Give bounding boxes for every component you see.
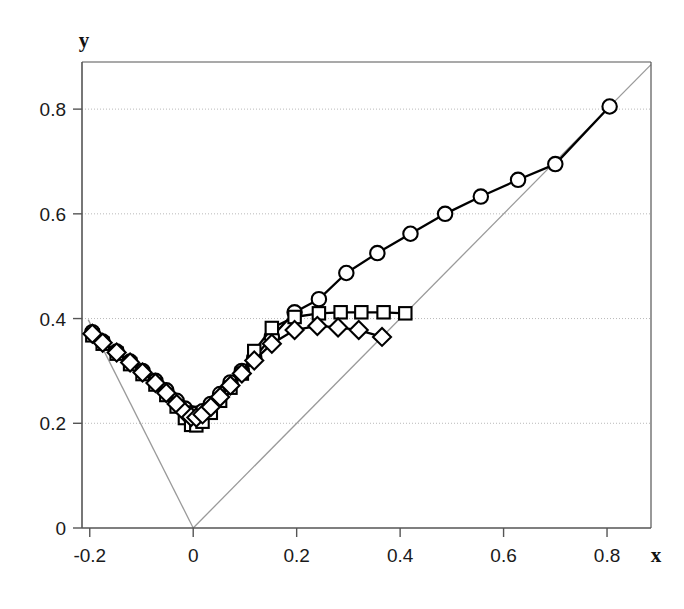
axes-group [82, 62, 651, 528]
tick-labels-group: -0.200.20.40.60.800.20.40.60.8 [40, 99, 621, 566]
reference-lines-group [88, 65, 651, 528]
y-tick-label: 0.4 [40, 309, 67, 330]
x-tick-label: 0 [188, 545, 199, 566]
data-point-circle [511, 173, 525, 187]
y-tick-label: 0.6 [40, 204, 66, 225]
x-tick-label: -0.2 [73, 545, 106, 566]
series-circles [85, 99, 617, 421]
data-point-circle [370, 246, 384, 260]
series-diamonds [83, 317, 391, 427]
x-axis-title: x [651, 543, 662, 567]
x-tick-label: 0.2 [283, 545, 309, 566]
data-point-diamond [350, 321, 368, 339]
data-point-square [377, 306, 389, 318]
data-point-square [355, 306, 367, 318]
line-chart-canvas: -0.200.20.40.60.800.20.40.60.8 y x [0, 0, 684, 609]
chart-figure: -0.200.20.40.60.800.20.40.60.8 y x [0, 0, 684, 609]
x-tick-label: 0.8 [594, 545, 620, 566]
data-point-circle [438, 207, 452, 221]
data-point-circle [548, 157, 562, 171]
data-point-circle [312, 292, 326, 306]
x-tick-label: 0.4 [387, 545, 414, 566]
data-point-circle [339, 266, 353, 280]
gridlines-group [82, 109, 651, 423]
data-point-circle [474, 189, 488, 203]
data-point-square [334, 306, 346, 318]
y-axis-title: y [79, 28, 90, 52]
x-tick-label: 0.6 [490, 545, 516, 566]
data-point-circle [602, 99, 616, 113]
data-point-square [399, 307, 411, 319]
y-tick-label: 0.2 [40, 413, 66, 434]
data-series-group [83, 99, 616, 431]
y-tick-label: 0 [55, 518, 66, 539]
data-point-diamond [329, 318, 347, 336]
data-point-square [266, 322, 278, 334]
data-point-circle [403, 227, 417, 241]
y-tick-label: 0.8 [40, 99, 66, 120]
